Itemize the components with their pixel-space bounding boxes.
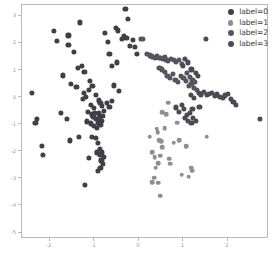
circle-marker-icon: [228, 20, 233, 25]
data-point: [52, 29, 57, 34]
tick-mark: [18, 177, 21, 178]
data-point: [158, 193, 163, 198]
circle-marker-icon: [228, 9, 234, 15]
data-point: [101, 113, 106, 118]
data-point: [162, 126, 167, 131]
data-point: [176, 110, 181, 115]
data-point: [29, 90, 34, 95]
y-axis-tick-label: 2: [13, 38, 16, 46]
data-point: [204, 134, 209, 139]
data-point: [95, 168, 100, 173]
data-point: [114, 60, 119, 65]
data-point: [190, 168, 195, 173]
data-point: [164, 112, 169, 117]
data-point: [160, 145, 165, 150]
data-point: [155, 130, 160, 135]
x-axis-tick: 2: [215, 238, 239, 250]
data-point: [134, 51, 139, 56]
circle-marker-icon: [228, 41, 234, 47]
y-axis-tick: 0: [0, 93, 21, 101]
data-point: [192, 79, 197, 84]
data-point: [66, 42, 71, 47]
data-point: [175, 79, 180, 84]
data-point: [180, 63, 185, 68]
data-point: [105, 40, 110, 45]
data-point: [141, 37, 146, 42]
data-point: [93, 92, 98, 97]
data-point: [124, 35, 129, 40]
data-point: [133, 44, 138, 49]
data-point: [35, 116, 40, 121]
data-point: [66, 33, 71, 38]
data-point: [160, 110, 165, 115]
data-point: [64, 117, 69, 122]
legend-item-label: label=0: [239, 7, 268, 18]
data-point: [179, 172, 184, 177]
data-point: [158, 153, 163, 158]
legend-marker-box: [222, 41, 239, 47]
x-axis-tick-label: 1: [170, 241, 194, 250]
data-point: [130, 38, 135, 43]
data-point: [101, 108, 106, 113]
legend-item-label: label=3: [239, 39, 268, 50]
data-point: [59, 110, 64, 115]
data-point: [107, 51, 112, 56]
y-axis-tick: -5: [0, 228, 21, 236]
y-axis-tick-label: -3: [11, 174, 16, 182]
y-axis-tick: -1: [0, 120, 21, 128]
data-point: [60, 73, 65, 78]
legend-item-0[interactable]: label=0: [222, 7, 268, 18]
data-point: [225, 91, 230, 96]
legend-item-2[interactable]: label=2: [222, 28, 268, 39]
y-axis-tick: 2: [0, 38, 21, 46]
y-axis-tick-label: 0: [13, 93, 16, 101]
data-point: [54, 38, 59, 43]
tick-mark: [18, 232, 21, 233]
data-point: [197, 104, 202, 109]
y-axis-tick-label: -1: [11, 120, 16, 128]
y-axis-tick-label: 1: [13, 66, 16, 74]
data-point: [111, 83, 116, 88]
data-point: [195, 73, 200, 78]
data-point: [147, 134, 152, 139]
data-point: [90, 83, 95, 88]
data-point: [203, 36, 208, 41]
data-point: [40, 152, 45, 157]
x-axis-tick-label: 2: [215, 241, 239, 250]
data-point: [72, 50, 77, 55]
tick-mark: [18, 150, 21, 151]
x-axis-tick: -1: [81, 238, 105, 250]
data-point: [159, 139, 164, 144]
data-point: [150, 180, 155, 185]
data-point: [177, 138, 182, 143]
legend-marker-box: [222, 9, 239, 15]
y-axis-tick-label: -5: [11, 228, 16, 236]
legend-item-3[interactable]: label=3: [222, 39, 268, 50]
tick-mark: [18, 96, 21, 97]
y-axis-tick: -4: [0, 201, 21, 209]
legend-item-label: label=1: [239, 18, 268, 29]
data-point: [109, 98, 114, 103]
y-axis-tick: -3: [0, 174, 21, 182]
data-point: [170, 71, 175, 76]
data-point: [86, 155, 91, 160]
data-point: [80, 96, 85, 101]
data-point: [79, 63, 84, 68]
legend-item-1[interactable]: label=1: [222, 18, 268, 29]
data-point: [74, 84, 79, 89]
legend-item-label: label=2: [239, 28, 268, 39]
data-point: [102, 30, 107, 35]
tick-mark: [18, 15, 21, 16]
data-point: [77, 20, 82, 25]
data-point: [153, 155, 158, 160]
data-point: [156, 180, 161, 185]
x-axis-tick-label: 0: [126, 241, 150, 250]
legend: label=0label=1label=2label=3: [221, 6, 270, 50]
data-point: [39, 143, 44, 148]
legend-marker-box: [222, 20, 239, 25]
data-point: [166, 100, 171, 105]
data-point: [83, 182, 88, 187]
tick-mark: [18, 42, 21, 43]
data-point: [186, 174, 191, 179]
data-point: [107, 104, 112, 109]
